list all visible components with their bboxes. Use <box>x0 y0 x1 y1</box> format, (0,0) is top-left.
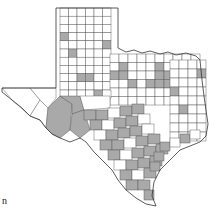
county <box>197 78 206 87</box>
county <box>170 96 179 105</box>
county <box>197 114 206 123</box>
county <box>77 16 86 24</box>
county <box>103 16 112 24</box>
county <box>94 24 103 32</box>
county <box>128 97 137 106</box>
county <box>155 63 164 72</box>
county <box>94 8 103 16</box>
county <box>124 138 136 148</box>
county <box>120 150 132 160</box>
county <box>119 54 128 63</box>
county <box>170 60 179 69</box>
county <box>170 87 179 96</box>
county-layer <box>2 8 206 200</box>
county <box>128 71 137 80</box>
county <box>77 57 86 65</box>
county <box>188 105 197 114</box>
county <box>103 49 112 57</box>
county <box>60 57 69 65</box>
county <box>94 130 106 140</box>
county <box>102 120 114 130</box>
county <box>77 8 86 16</box>
county <box>119 97 128 106</box>
county <box>103 82 112 90</box>
county <box>128 80 137 89</box>
county <box>110 88 119 97</box>
county <box>197 60 206 69</box>
county <box>110 54 119 63</box>
county <box>110 71 119 80</box>
county <box>155 54 164 63</box>
county <box>137 97 146 106</box>
county <box>86 24 95 32</box>
county <box>119 71 128 80</box>
county <box>146 71 155 80</box>
county <box>94 49 103 57</box>
county <box>114 160 126 170</box>
county <box>188 69 197 78</box>
county <box>60 24 69 32</box>
county <box>137 80 146 89</box>
county <box>126 160 138 170</box>
county <box>132 170 144 180</box>
county <box>60 33 69 41</box>
county <box>118 128 130 138</box>
county <box>137 63 146 72</box>
county <box>80 96 110 110</box>
county <box>136 136 148 146</box>
county <box>137 71 146 80</box>
county <box>77 49 86 57</box>
county <box>86 16 95 24</box>
county <box>146 63 155 72</box>
county <box>119 88 128 97</box>
county <box>69 33 78 41</box>
county <box>86 33 95 41</box>
county <box>103 41 112 49</box>
county <box>188 87 197 96</box>
county <box>86 57 95 65</box>
county <box>142 124 154 134</box>
county <box>179 96 188 105</box>
county <box>138 114 150 124</box>
county <box>137 88 146 97</box>
county <box>170 105 179 114</box>
county <box>155 88 164 97</box>
county <box>69 82 78 90</box>
county <box>137 54 146 63</box>
county <box>94 74 103 82</box>
county <box>94 82 103 90</box>
county <box>60 49 69 57</box>
county <box>94 41 103 49</box>
county <box>106 130 118 140</box>
county <box>170 78 179 87</box>
county <box>60 41 69 49</box>
county <box>154 152 164 161</box>
county <box>69 74 78 82</box>
county <box>103 8 112 16</box>
county <box>69 49 78 57</box>
county <box>119 80 128 89</box>
county <box>179 105 188 114</box>
county <box>179 60 188 69</box>
county <box>188 96 197 105</box>
county <box>119 63 128 72</box>
county <box>130 126 142 136</box>
county <box>103 24 112 32</box>
county <box>69 65 78 73</box>
county <box>126 180 138 190</box>
county <box>96 110 108 120</box>
county <box>138 158 150 168</box>
county <box>77 74 86 82</box>
county <box>103 74 112 82</box>
county <box>60 82 69 90</box>
county <box>100 140 112 150</box>
county <box>60 8 69 16</box>
county <box>120 106 132 116</box>
county <box>146 97 155 106</box>
county <box>103 33 112 41</box>
county <box>170 114 179 123</box>
county <box>197 105 206 114</box>
county <box>94 33 103 41</box>
county <box>155 71 164 80</box>
county <box>128 88 137 97</box>
